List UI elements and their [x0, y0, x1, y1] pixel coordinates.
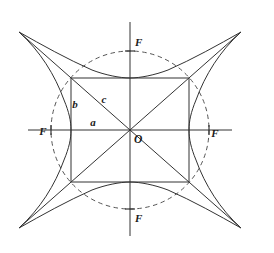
hyperbola-diagram: O a b c F F F F — [0, 0, 274, 253]
focus-label-bottom: F — [134, 212, 143, 224]
focus-label-left: F — [38, 125, 47, 137]
focus-label-top: F — [134, 36, 143, 48]
focal-distance-c-label: c — [102, 93, 107, 105]
center-label: O — [134, 133, 142, 145]
semi-axis-b-label: b — [72, 98, 78, 110]
hyperbola-figure: O a b c F F F F — [0, 0, 274, 253]
semi-axis-a-label: a — [90, 116, 96, 128]
focus-label-right: F — [210, 127, 219, 139]
